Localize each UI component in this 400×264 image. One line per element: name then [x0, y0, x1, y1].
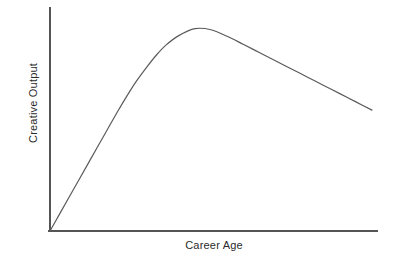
x-axis-label: Career Age: [114, 240, 314, 251]
chart-background: [0, 0, 400, 264]
chart-figure: Creative Output Career Age: [0, 0, 400, 264]
chart-plot-area: [0, 0, 400, 264]
y-axis-label: Creative Output: [28, 77, 39, 143]
